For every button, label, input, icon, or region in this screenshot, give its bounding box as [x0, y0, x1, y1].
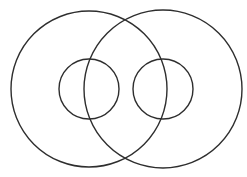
- diagram-canvas: [0, 0, 247, 177]
- small-right-circle: [133, 59, 193, 119]
- small-left-circle: [59, 59, 119, 119]
- large-right-circle: [84, 10, 242, 168]
- large-left-circle: [11, 11, 167, 167]
- overlapping-circles-diagram: [0, 0, 247, 177]
